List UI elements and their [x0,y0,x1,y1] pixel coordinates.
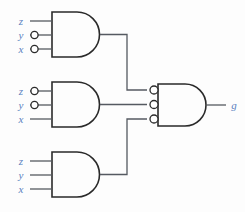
gate-3-body [52,152,100,197]
gate-1-body [52,12,100,57]
gate-1: z y x [18,12,147,90]
gate-output-input-1-bubble [150,86,158,94]
logic-circuit-diagram: z y x z y x [0,0,245,212]
gate-2-input-1-bubble [31,87,38,94]
gate-2-input-2-label: y [18,99,24,111]
gate-3: z y x [18,119,147,197]
gate-1-input-3-label: x [18,43,24,55]
gate-output-input-2-bubble [150,101,158,109]
gate-output: g [150,84,237,126]
gate-2-input-2-bubble [31,101,38,108]
gate-1-input-3-bubble [31,45,38,52]
gate-1-input-2-bubble [31,31,38,38]
circuit-canvas: z y x z y x [0,0,245,212]
gate-1-input-1-label: z [18,15,24,27]
gate-2-input-1-label: z [18,85,24,97]
gate-3-input-1-label: z [18,155,24,167]
gate-output-input-3-bubble [150,115,158,123]
gate-3-input-3-label: x [18,183,24,195]
gate-3-input-2-label: y [18,169,24,181]
gate-3-output-wire [100,119,147,175]
gate-2-input-3-label: x [18,113,24,125]
gate-1-output-wire [100,35,147,91]
gate-output-body [158,84,206,126]
gate-output-label: g [231,99,237,111]
gate-2-body [52,82,100,127]
gate-1-input-2-label: y [18,29,24,41]
